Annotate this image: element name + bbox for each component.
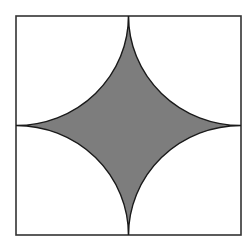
figure-canvas bbox=[0, 0, 251, 252]
